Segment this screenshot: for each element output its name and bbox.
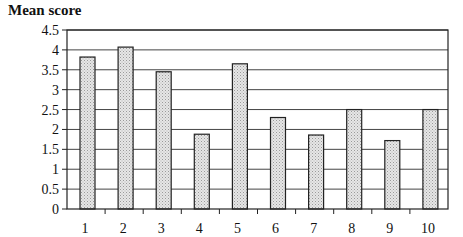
x-tick-label: 4	[196, 221, 203, 236]
y-tick-label: 1	[52, 162, 59, 177]
y-tick-label: 1.5	[42, 142, 60, 157]
bar-1	[80, 57, 95, 209]
y-tick-label: 3.5	[42, 63, 60, 78]
bars	[80, 47, 438, 209]
bar-7	[309, 135, 324, 209]
y-tick-label: 4	[52, 43, 59, 58]
bar-9	[385, 141, 400, 209]
x-tick-label: 1	[82, 221, 89, 236]
y-tick-label: 4.5	[42, 23, 60, 38]
bar-10	[423, 110, 438, 209]
x-tick-label: 8	[348, 221, 355, 236]
bar-8	[347, 110, 362, 209]
bar-4	[194, 134, 209, 209]
x-tick-label: 3	[158, 221, 165, 236]
bar-6	[271, 118, 286, 209]
bar-2	[118, 47, 133, 209]
x-axis-ticks: 12345678910	[82, 209, 435, 236]
y-tick-label: 2.5	[42, 103, 60, 118]
x-tick-label: 6	[272, 221, 279, 236]
x-tick-label: 9	[386, 221, 393, 236]
x-tick-label: 10	[421, 221, 435, 236]
bar-3	[156, 72, 171, 209]
y-tick-label: 0	[52, 202, 59, 217]
bar-5	[232, 64, 247, 209]
y-tick-label: 2	[52, 122, 59, 137]
x-tick-label: 7	[310, 221, 317, 236]
y-tick-label: 0.5	[42, 182, 60, 197]
bar-chart: 00.511.522.533.544.5 12345678910	[0, 0, 463, 237]
y-tick-label: 3	[52, 83, 59, 98]
y-axis-ticks: 00.511.522.533.544.5	[42, 23, 68, 217]
x-tick-label: 5	[234, 221, 241, 236]
x-tick-label: 2	[120, 221, 127, 236]
